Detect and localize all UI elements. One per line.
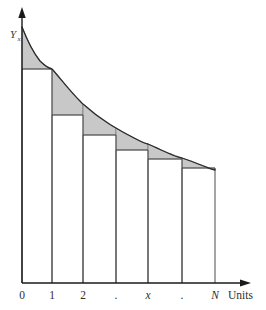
y-axis-label: Y x (10, 28, 22, 43)
x-axis-tick-labels: 0 1 2 . x . N (19, 289, 220, 301)
bars-group (22, 69, 215, 283)
figure-container: Y x 0 1 2 . x . N Units (0, 0, 266, 310)
y-axis-label-subscript: x (17, 35, 22, 43)
x-axis (22, 279, 251, 286)
x-tick-label-0: 0 (19, 289, 25, 301)
x-tick-label-2: 2 (80, 289, 86, 301)
bar-2 (83, 135, 116, 283)
bar-3 (116, 150, 148, 283)
x-tick-label-6: N (210, 289, 220, 301)
shaded-region-1 (52, 69, 83, 115)
shaded-region-0 (22, 27, 52, 69)
x-tick-label-5: . (181, 289, 184, 301)
shaded-regions-group (22, 27, 215, 170)
bar-0 (22, 69, 52, 283)
bar-4 (148, 159, 182, 283)
x-tick-label-3: . (115, 289, 118, 301)
integral-approximation-figure: Y x 0 1 2 . x . N Units (0, 0, 266, 310)
x-tick-label-4: x (144, 289, 151, 301)
y-axis-arrow (18, 7, 25, 18)
x-tick-label-1: 1 (49, 289, 55, 301)
x-axis-units-label: Units (228, 289, 253, 301)
bar-1 (52, 115, 83, 283)
bar-5 (182, 168, 215, 283)
x-axis-arrow (240, 279, 251, 286)
